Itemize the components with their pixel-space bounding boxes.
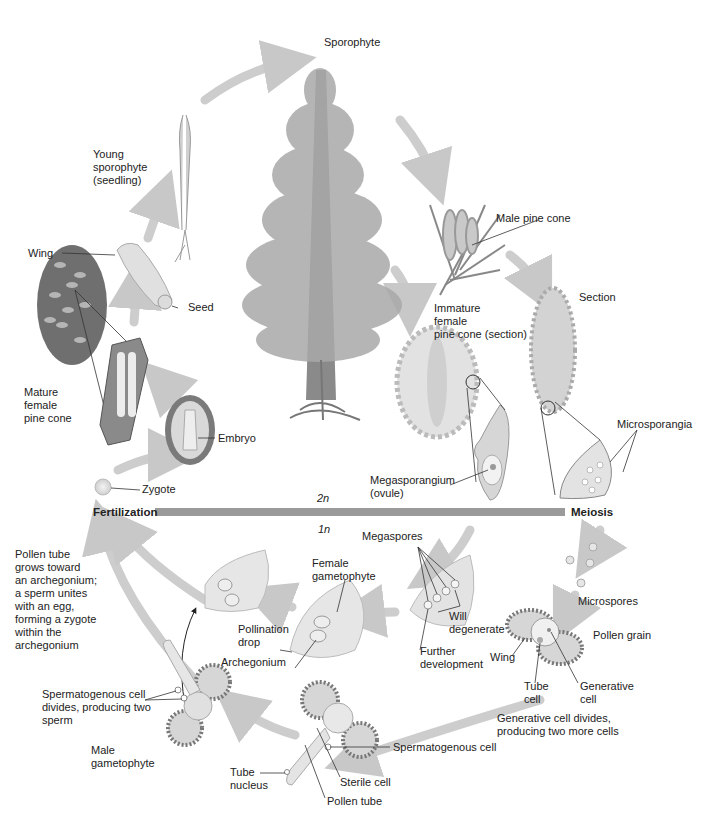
label-further-development: Further development: [420, 645, 483, 671]
label-tube-nucleus: Tube nucleus: [230, 766, 268, 792]
zygote: [95, 479, 140, 495]
male-gametophyte: [145, 640, 230, 745]
label-fertilization-note: Pollen tube grows toward an archegonium;…: [15, 548, 97, 652]
pollen-grain: [507, 610, 582, 683]
arrow-seed-to-seedling: [148, 195, 163, 238]
seed-with-embryo: [165, 395, 215, 465]
pine-life-cycle-diagram: Sporophyte Young sporophyte (seedling) W…: [0, 0, 707, 818]
label-megasporangium: Megasporangium (ovule): [370, 474, 455, 500]
male-cone-section: [531, 288, 575, 415]
label-spermatogenous-divides: Spermatogenous cell divides, producing t…: [42, 688, 151, 727]
arrow-tree-to-male-cone: [400, 120, 435, 180]
label-male-gametophyte: Male gametophyte: [91, 744, 155, 770]
label-pollen-wing: Wing: [490, 651, 515, 664]
label-haploid: 1n: [318, 523, 330, 536]
label-female-gametophyte: Female gametophyte: [312, 557, 376, 583]
label-immature-female-cone: Immature female pine cone (section): [434, 302, 527, 341]
arrow-tube-to-male-gametophyte: [235, 705, 295, 735]
microsporangium: [541, 402, 637, 499]
immature-female-cone-section: [397, 327, 480, 437]
label-spermatogenous-cell: Spermatogenous cell: [393, 741, 496, 754]
label-seed: Seed: [188, 301, 214, 314]
label-sterile-cell: Sterile cell: [340, 776, 391, 789]
label-pollination-drop: Pollination drop: [238, 623, 289, 649]
label-young-sporophyte: Young sporophyte (seedling): [93, 148, 147, 187]
label-sporophyte: Sporophyte: [324, 36, 380, 49]
label-tube-cell: Tube cell: [524, 680, 549, 706]
label-wing: Wing: [28, 247, 53, 260]
label-zygote: Zygote: [142, 483, 176, 496]
label-generative-divides: Generative cell divides, producing two m…: [497, 712, 619, 738]
arrow-microspores-to-pollen: [565, 595, 575, 620]
arrow-zygote-to-embryo: [118, 455, 175, 470]
label-diploid: 2n: [317, 492, 329, 505]
arrow-archegonium-to-fertilization: [120, 528, 205, 600]
label-will-degenerate: Will degenerate: [449, 610, 505, 636]
label-male-pine-cone: Male pine cone: [496, 212, 571, 225]
label-generative-cell: Generative cell: [580, 680, 634, 706]
winged-seed: [117, 243, 172, 309]
arrow-gametophyte-to-archegonium: [265, 598, 292, 607]
male-pine-cone-branch: [430, 205, 505, 295]
young-sporophyte-seedling: [175, 115, 191, 262]
label-pollen-tube: Pollen tube: [327, 795, 382, 808]
label-fertilization: Fertilization: [93, 506, 158, 519]
label-pollen-grain: Pollen grain: [593, 629, 651, 642]
arrow-seedling-to-tree: [205, 62, 290, 100]
label-mature-female-cone: Mature female pine cone: [24, 386, 72, 425]
label-microsporangia: Microsporangia: [617, 418, 692, 431]
label-meiosis: Meiosis: [571, 506, 613, 519]
label-archegonium: Archegonium: [221, 656, 286, 669]
arrow-embryo-to-scale: [160, 380, 175, 395]
cone-scale-with-seeds: [100, 338, 148, 445]
arrow-to-fertilization: [102, 525, 195, 680]
label-section: Section: [579, 291, 616, 304]
label-megaspores: Megaspores: [362, 530, 423, 543]
microspores: [566, 543, 597, 587]
arrow-cone-to-seed: [134, 282, 137, 322]
arrow-male-cone-to-section: [510, 255, 540, 290]
female-gametophyte-ovule: [280, 580, 364, 668]
label-microspores: Microspores: [578, 595, 638, 608]
label-embryo: Embryo: [218, 432, 256, 445]
sporophyte-tree: [242, 68, 402, 420]
ploidy-bar: [155, 508, 565, 516]
